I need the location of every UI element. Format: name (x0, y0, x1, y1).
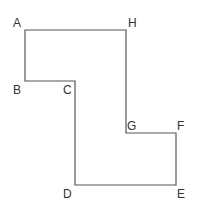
vertex-label-g: G (127, 119, 136, 133)
vertex-label-h: H (128, 16, 137, 30)
vertex-labels: A H G F E D C B (13, 16, 185, 201)
vertex-label-a: A (13, 16, 21, 30)
vertex-label-f: F (177, 119, 184, 133)
shape-outline (25, 30, 176, 185)
vertex-label-c: C (63, 83, 72, 97)
vertex-label-d: D (63, 187, 72, 201)
polygon-diagram: A H G F E D C B (0, 0, 198, 212)
vertex-label-b: B (13, 83, 21, 97)
vertex-label-e: E (177, 187, 185, 201)
